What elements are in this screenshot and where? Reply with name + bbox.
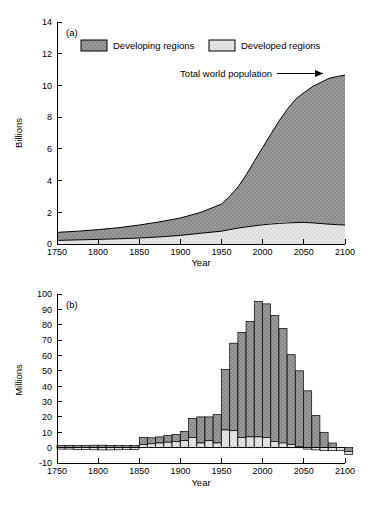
y-tick-50: 50 (42, 366, 52, 376)
x-tick-2050: 2050 (294, 247, 314, 257)
y-tick-10: 10 (42, 81, 52, 91)
bar-row (263, 438, 271, 448)
panel-b-y-axis-title: Millions (13, 364, 24, 396)
bar-row (279, 443, 287, 448)
y-tick-40: 40 (42, 382, 52, 392)
panel-a-x-ticklabels: 1750 1800 1850 1900 1950 2000 2050 2100 (47, 247, 355, 257)
legend-swatch-developing (81, 40, 107, 51)
bar-row (189, 438, 197, 448)
bar-row (295, 371, 303, 447)
y-tick-12: 12 (42, 49, 52, 59)
bar-row (320, 432, 328, 447)
y-tick-6: 6 (47, 144, 52, 154)
bar-row (271, 442, 279, 448)
bar-row (164, 442, 172, 447)
panel-b-x-axis-title: Year (191, 477, 210, 488)
panel-a-x-axis-title: Year (191, 257, 210, 268)
y-tick-100: 100 (37, 289, 52, 299)
x-tick-1950: 1950 (211, 247, 231, 257)
panel-a-area-chart: 0 2 4 6 8 10 12 14 1750 (0, 0, 377, 268)
bar-row (180, 432, 188, 441)
bar-row (254, 437, 262, 448)
x-tick-2100: 2100 (335, 247, 355, 257)
bar-row (246, 322, 254, 437)
y-tick-80: 80 (42, 320, 52, 330)
bar-row (148, 438, 156, 444)
x-tick-1800: 1800 (88, 466, 108, 476)
bar-row (213, 443, 221, 448)
panel-a-svg: 0 2 4 6 8 10 12 14 1750 (0, 0, 377, 268)
bar-row (304, 391, 312, 448)
bar-row (345, 452, 353, 455)
bar-row (287, 355, 295, 445)
bar-row (263, 304, 271, 438)
x-tick-1900: 1900 (170, 247, 190, 257)
x-tick-1850: 1850 (129, 466, 149, 476)
bar-row (230, 343, 238, 431)
bar-row (345, 448, 353, 452)
x-tick-1950: 1950 (211, 466, 231, 476)
bar-row (172, 435, 180, 442)
bar-row (205, 417, 213, 441)
panel-a-y-ticklabels: 0 2 4 6 8 10 12 14 (42, 17, 52, 249)
x-tick-2000: 2000 (253, 466, 273, 476)
bar-row (164, 435, 172, 442)
y-tick-8: 8 (47, 112, 52, 122)
x-tick-2100: 2100 (335, 466, 355, 476)
x-tick-1750: 1750 (47, 247, 67, 257)
bar-row (156, 437, 164, 443)
panel-a-y-axis-title: Billions (13, 118, 24, 148)
bar-row (230, 431, 238, 448)
bar-row (197, 417, 205, 443)
bar-row (238, 332, 246, 437)
bar-row (328, 443, 336, 448)
population-figure: 0 2 4 6 8 10 12 14 1750 (0, 0, 377, 519)
x-tick-2050: 2050 (294, 466, 314, 476)
x-tick-1750: 1750 (47, 466, 67, 476)
legend-label-developing: Developing regions (113, 40, 195, 51)
panel-a-tag: (a) (66, 27, 78, 38)
bar-row (222, 430, 230, 448)
bar-row (172, 442, 180, 448)
legend-label-developed: Developed regions (241, 40, 320, 51)
x-tick-1900: 1900 (170, 466, 190, 476)
y-tick-30: 30 (42, 397, 52, 407)
legend-swatch-developed (209, 40, 235, 51)
annotation-label: Total world population (180, 68, 272, 79)
panel-b-tag: (b) (66, 299, 78, 310)
bar-row (180, 441, 188, 448)
y-tick-0: 0 (47, 443, 52, 453)
bar-row (189, 418, 197, 437)
bar-row (213, 415, 221, 443)
bar-row (156, 443, 164, 448)
y-tick-4: 4 (47, 176, 52, 186)
bar-row (222, 369, 230, 430)
y-tick-2: 2 (47, 208, 52, 218)
panel-b-bar-chart: -10 0 10 20 30 40 50 60 70 80 90 100 (0, 268, 377, 519)
bar-row (246, 437, 254, 448)
x-tick-2000: 2000 (253, 247, 273, 257)
x-tick-1800: 1800 (88, 247, 108, 257)
y-tick-14: 14 (42, 17, 52, 27)
bar-row (271, 315, 279, 441)
panel-b-y-ticklabels: -10 0 10 20 30 40 50 60 70 80 90 100 (37, 289, 52, 468)
bar-row (279, 329, 287, 444)
x-tick-1850: 1850 (129, 247, 149, 257)
y-tick-10: 10 (42, 428, 52, 438)
bar-row (238, 438, 246, 448)
bar-row (312, 415, 320, 447)
bar-row (205, 441, 213, 448)
y-tick-90: 90 (42, 305, 52, 315)
y-tick-70: 70 (42, 335, 52, 345)
panel-b-x-ticklabels: 1750 1800 1850 1900 1950 2000 2050 2100 (47, 466, 355, 476)
panel-b-svg: -10 0 10 20 30 40 50 60 70 80 90 100 (0, 268, 377, 519)
bar-row (254, 302, 262, 437)
y-tick-20: 20 (42, 412, 52, 422)
bar-row (148, 444, 156, 448)
bar-row (139, 438, 147, 445)
bar-row (197, 443, 205, 448)
y-tick-60: 60 (42, 351, 52, 361)
